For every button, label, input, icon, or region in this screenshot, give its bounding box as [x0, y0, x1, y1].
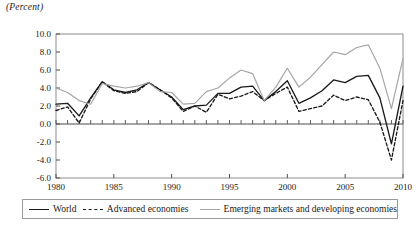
data-series-group: [56, 45, 403, 160]
plot-frame: [56, 34, 403, 178]
svg-text:0.0: 0.0: [40, 119, 52, 129]
svg-text:4.0: 4.0: [40, 83, 52, 93]
svg-text:6.0: 6.0: [40, 65, 52, 75]
x-axis-tick-labels: 1980198519901995200020052010: [47, 182, 413, 192]
svg-text:-4.0: -4.0: [37, 155, 52, 165]
svg-text:8.0: 8.0: [40, 47, 52, 57]
svg-text:10.0: 10.0: [35, 29, 51, 39]
legend-entry-advanced-economies: Advanced economies: [83, 204, 189, 214]
axis-ticks: [56, 34, 403, 178]
svg-text:1990: 1990: [163, 182, 182, 192]
legend-label: Emerging markets and developing economie…: [224, 204, 397, 214]
chart-plot-area: -6.0-4.0-2.00.02.04.06.08.010.0 19801985…: [0, 0, 420, 232]
legend-swatch-dashed-line-icon: [83, 209, 103, 210]
svg-text:2005: 2005: [336, 182, 355, 192]
svg-text:1995: 1995: [221, 182, 240, 192]
svg-text:2000: 2000: [278, 182, 297, 192]
svg-text:1980: 1980: [47, 182, 66, 192]
svg-text:2.0: 2.0: [40, 101, 52, 111]
y-axis-tick-labels: -6.0-4.0-2.00.02.04.06.08.010.0: [35, 29, 51, 183]
svg-text:-2.0: -2.0: [37, 137, 52, 147]
legend-entry-world: World: [29, 204, 77, 214]
svg-text:1985: 1985: [105, 182, 124, 192]
legend-entry-emerging-markets: Emerging markets and developing economie…: [200, 204, 397, 214]
chart-legend: World Advanced economies Emerging market…: [22, 199, 398, 219]
svg-text:2010: 2010: [394, 182, 413, 192]
legend-label: World: [53, 204, 77, 214]
gdp-growth-chart: (Percent) -6.0-4.0-2.00.02.04.06.08.010.…: [0, 0, 420, 232]
legend-swatch-gray-line-icon: [200, 209, 220, 210]
legend-label: Advanced economies: [107, 204, 189, 214]
legend-swatch-line-icon: [29, 209, 49, 210]
